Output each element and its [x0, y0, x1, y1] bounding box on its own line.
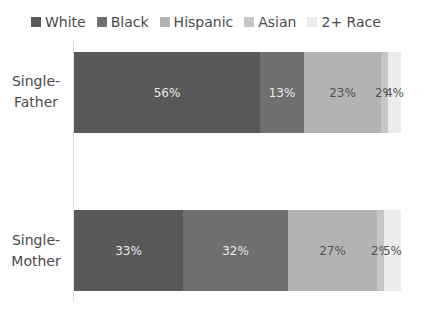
bar-single-mother: 33% 32% 27% 2% 5% — [74, 210, 401, 291]
legend-swatch-icon — [244, 17, 254, 27]
data-label: 5% — [383, 244, 402, 258]
segment-multiracial: 5% — [384, 210, 401, 291]
legend-item-white: White — [31, 14, 86, 30]
segment-white: 33% — [74, 210, 183, 291]
segment-hispanic: 23% — [304, 52, 381, 133]
legend-item-hispanic: Hispanic — [160, 14, 234, 30]
legend-label: Black — [111, 14, 149, 30]
data-label: 13% — [269, 86, 296, 100]
category-label-line: Single- — [1, 230, 71, 251]
data-label: 4% — [385, 86, 404, 100]
legend-swatch-icon — [307, 17, 317, 27]
data-label: 32% — [222, 244, 249, 258]
category-label-single-mother: Single- Mother — [1, 230, 71, 272]
legend-swatch-icon — [160, 17, 170, 27]
segment-multiracial: 4% — [388, 52, 401, 133]
data-label: 23% — [329, 86, 356, 100]
legend-item-multiracial: 2+ Race — [307, 14, 380, 30]
category-label-line: Single- — [1, 71, 71, 92]
legend-swatch-icon — [31, 17, 41, 27]
legend-label: Hispanic — [174, 14, 234, 30]
category-label-line: Mother — [1, 251, 71, 272]
legend-swatch-icon — [97, 17, 107, 27]
segment-hispanic: 27% — [288, 210, 377, 291]
chart-legend: White Black Hispanic Asian 2+ Race — [31, 14, 392, 30]
segment-black: 32% — [183, 210, 288, 291]
category-label-line: Father — [1, 92, 71, 113]
legend-item-asian: Asian — [244, 14, 296, 30]
data-label: 33% — [115, 244, 142, 258]
legend-label: White — [45, 14, 86, 30]
bar-single-father: 56% 13% 23% 2% 4% — [74, 52, 401, 133]
legend-item-black: Black — [97, 14, 149, 30]
data-label: 56% — [154, 86, 181, 100]
category-label-single-father: Single- Father — [1, 71, 71, 113]
data-label: 27% — [319, 244, 346, 258]
segment-black: 13% — [260, 52, 304, 133]
segment-white: 56% — [74, 52, 260, 133]
legend-label: 2+ Race — [321, 14, 380, 30]
legend-label: Asian — [258, 14, 296, 30]
